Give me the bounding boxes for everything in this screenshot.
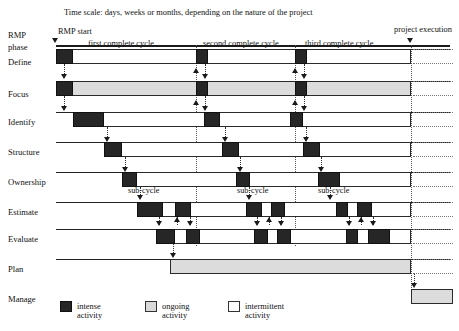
legend-swatch-intermittent [228, 301, 240, 312]
bar-define-intense-3 [295, 49, 307, 64]
phase-label-focus: Focus [8, 90, 29, 99]
axis-title-line2: phase [8, 43, 28, 52]
bar-estimate-intense-2 [175, 202, 191, 217]
axis-title-line1: RMP [8, 31, 26, 40]
timescale-note: Time scale: days, weeks or months, depen… [64, 9, 313, 17]
arrow-down-ownership-estimate [137, 195, 143, 200]
legend-label-ongoing: ongoing activity [162, 302, 189, 320]
rmp-start-label: RMP start [58, 28, 92, 36]
rmp-phase-gantt-figure: Time scale: days, weeks or months, depen… [0, 0, 459, 331]
arrow-down-ownership-estimate-3 [327, 195, 333, 200]
bar-identify-intense-3 [290, 112, 303, 127]
row-band-ownership [122, 172, 411, 187]
row-band-structure [104, 142, 411, 157]
rmp-start-arrow-icon [52, 38, 58, 43]
bar-focus-intense-3 [295, 81, 307, 96]
project-execution-label: project execution [394, 26, 452, 34]
phase-label-plan: Plan [8, 265, 23, 274]
bar-ownership-intense-3 [318, 172, 340, 187]
arrow-up-evaluate-estimate-3 [358, 217, 364, 222]
arrow-down-define-focus [61, 74, 67, 79]
row-band-identify [73, 112, 411, 127]
phase-label-structure: Structure [8, 148, 40, 157]
bar-identify-intense-2 [204, 112, 220, 127]
arrow-down-focus-identify-2 [202, 106, 208, 111]
arrow-down-estimate-evaluate-1 [156, 221, 162, 226]
subcycle-label-2: sub-cycle [237, 187, 268, 195]
bar-define-intense-2 [196, 49, 208, 64]
bar-estimate-intense-1 [137, 202, 163, 217]
arrow-down-estimate-evaluate-2 [254, 221, 260, 226]
legend-label-intermittent: intermittent activity [245, 302, 284, 320]
phase-label-estimate: Estimate [8, 208, 38, 217]
arrow-up-into-focus-2 [292, 100, 298, 105]
arrow-down-estimate-evaluate-3b [370, 221, 376, 226]
arrow-down-evaluate-plan [170, 253, 176, 258]
arrow-down-plan-manage [411, 283, 417, 288]
arrow-down-focus-identify-3 [301, 106, 307, 111]
arrow-down-define-focus-2 [202, 74, 208, 79]
legend-swatch-intense [60, 301, 72, 312]
bar-ownership-intense-1 [122, 172, 137, 187]
arrow-up-evaluate-estimate-2 [266, 217, 272, 222]
bar-structure-intense-2 [222, 142, 239, 157]
bar-estimate-intense-3 [246, 202, 262, 217]
phase-label-evaluate: Evaluate [8, 235, 38, 244]
bar-ownership-intense-2 [236, 172, 250, 187]
arrow-up-into-focus [193, 100, 199, 105]
bar-evaluate-intense-1 [156, 229, 175, 244]
bar-identify-intense-1 [73, 112, 104, 127]
bar-focus-intense-1 [56, 81, 73, 96]
bar-estimate-intense-6 [357, 202, 372, 217]
arrow-down-define-focus-3 [301, 74, 307, 79]
row-band-define [56, 49, 411, 64]
arrow-down-ownership-estimate-2 [246, 195, 252, 200]
arrow-down-estimate-evaluate-1b [187, 221, 193, 226]
phase-label-define: Define [8, 58, 31, 67]
arrow-up-evaluate-estimate-1 [174, 217, 180, 222]
bar-estimate-intense-5 [336, 202, 348, 217]
row-band-focus [56, 81, 411, 96]
bar-focus-intense-2 [196, 81, 208, 96]
project-execution-arrow-icon [407, 38, 413, 43]
bar-estimate-intense-4 [271, 202, 285, 217]
bar-define-intense-1 [56, 49, 73, 64]
bar-evaluate-intense-5 [346, 229, 358, 244]
arrow-down-estimate-evaluate-3 [346, 221, 352, 226]
row-band-manage [411, 289, 453, 304]
arrow-down-focus-identify [61, 106, 67, 111]
bar-evaluate-intense-2 [186, 229, 200, 244]
bar-evaluate-intense-3 [254, 229, 268, 244]
bar-structure-intense-3 [303, 142, 320, 157]
bar-evaluate-intense-6 [368, 229, 390, 244]
row-band-plan [170, 259, 411, 274]
subcycle-label-3: sub-cycle [318, 187, 349, 195]
arrow-down-estimate-evaluate-2b [278, 221, 284, 226]
subcycle-label-1: sub-cycle [128, 187, 159, 195]
arrow-up-identify-define-2 [292, 68, 298, 73]
arrow-up-identify-define [193, 68, 199, 73]
legend-swatch-ongoing [145, 301, 157, 312]
phase-label-ownership: Ownership [8, 178, 46, 187]
timeline-axis [56, 45, 450, 47]
bar-evaluate-intense-4 [277, 229, 291, 244]
bar-structure-intense-1 [104, 142, 122, 157]
phase-label-manage: Manage [8, 295, 36, 304]
phase-label-identify: Identify [8, 118, 35, 127]
legend-label-intense: intense activity [77, 302, 102, 320]
